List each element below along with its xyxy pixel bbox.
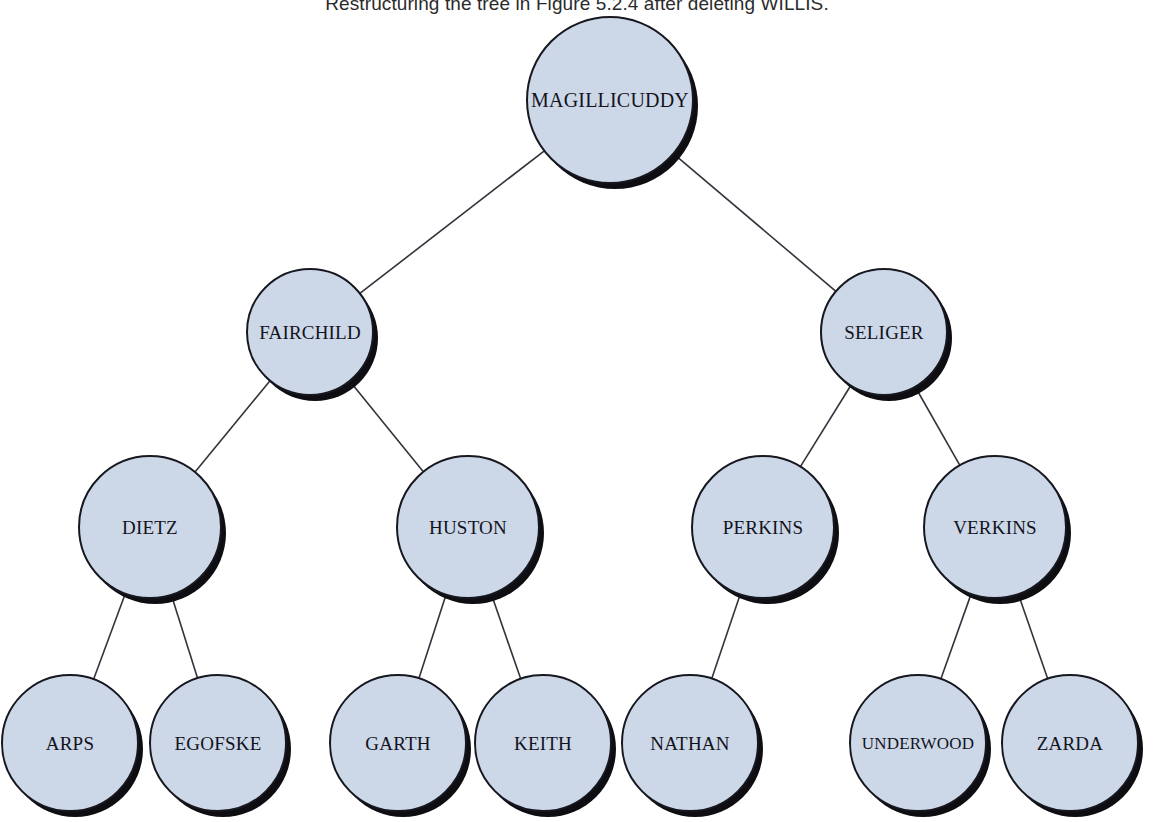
tree-node-egofske[interactable]: EGOFSKE [149, 674, 287, 812]
tree-node-zarda[interactable]: ZARDA [1001, 674, 1139, 812]
tree-edge [360, 151, 545, 294]
tree-node-label: DIETZ [122, 518, 178, 537]
tree-edge [171, 595, 197, 678]
tree-edge [491, 594, 520, 679]
tree-node-label: UNDERWOOD [862, 735, 974, 752]
tree-node-seliger[interactable]: SELIGER [820, 268, 948, 396]
tree-node-label: HUSTON [429, 518, 507, 537]
tree-node-huston[interactable]: HUSTON [396, 455, 540, 599]
tree-node-dietz[interactable]: DIETZ [78, 455, 222, 599]
tree-edge [1018, 594, 1047, 679]
tree-edge [419, 595, 446, 679]
tree-edge [195, 381, 270, 472]
tree-diagram-canvas: Restructuring the tree in Figure 5.2.4 a… [0, 0, 1154, 822]
tree-node-underwood[interactable]: UNDERWOOD [849, 674, 987, 812]
tree-node-label: ZARDA [1037, 734, 1103, 753]
tree-node-label: VERKINS [953, 518, 1037, 537]
tree-edge [915, 387, 960, 466]
tree-node-keith[interactable]: KEITH [474, 674, 612, 812]
tree-node-label: SELIGER [844, 323, 924, 342]
tree-node-verkins[interactable]: VERKINS [923, 455, 1067, 599]
tree-edge [673, 154, 836, 292]
tree-node-label: FAIRCHILD [259, 323, 361, 342]
tree-node-label: KEITH [514, 734, 572, 753]
tree-node-label: GARTH [365, 734, 430, 753]
tree-node-label: PERKINS [723, 518, 804, 537]
tree-node-label: EGOFSKE [175, 734, 262, 753]
tree-edge [712, 594, 740, 678]
tree-edge [941, 594, 971, 679]
tree-node-magillicuddy[interactable]: MAGILLICUDDY [526, 16, 694, 184]
tree-node-fairchild[interactable]: FAIRCHILD [246, 268, 374, 396]
tree-node-label: ARPS [46, 734, 94, 753]
tree-node-garth[interactable]: GARTH [329, 674, 467, 812]
tree-node-label: NATHAN [650, 734, 729, 753]
tree-edge [800, 386, 850, 467]
tree-edge [350, 381, 424, 472]
tree-node-arps[interactable]: ARPS [1, 674, 139, 812]
tree-edge [94, 594, 126, 680]
tree-node-nathan[interactable]: NATHAN [621, 674, 759, 812]
tree-node-label: MAGILLICUDDY [531, 90, 689, 110]
tree-node-perkins[interactable]: PERKINS [691, 455, 835, 599]
